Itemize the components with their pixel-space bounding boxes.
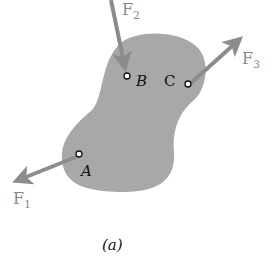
point-c-label: C: [164, 72, 175, 90]
point-b-marker: [124, 73, 130, 79]
force-label-f2: F2: [122, 0, 140, 22]
figure-caption: (a): [102, 236, 123, 254]
force-label-f3: F3: [242, 49, 260, 71]
force-diagram: A B C F2 F3 F1 (a): [0, 0, 277, 267]
point-a-label: A: [79, 162, 92, 180]
point-b-label: B: [135, 72, 147, 90]
point-c-marker: [185, 81, 191, 87]
force-label-f1: F1: [13, 189, 31, 211]
point-a-marker: [76, 151, 82, 157]
